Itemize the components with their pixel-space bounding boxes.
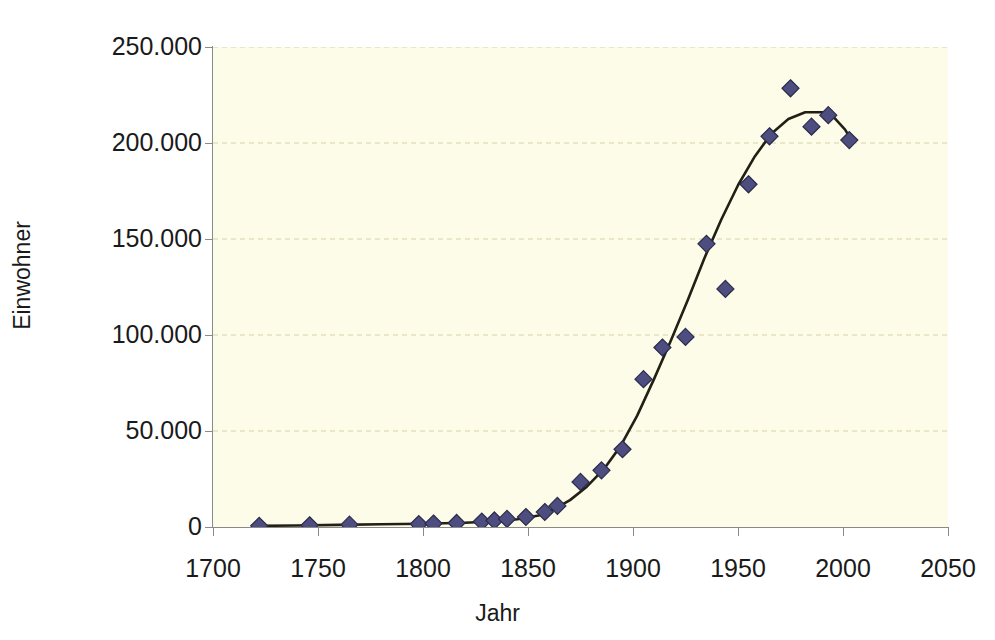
x-tick-mark bbox=[213, 528, 214, 536]
data-point bbox=[448, 514, 465, 527]
data-point bbox=[841, 132, 858, 149]
x-tick-label: 1900 bbox=[573, 556, 693, 581]
x-tick-mark bbox=[423, 528, 424, 536]
data-point bbox=[410, 516, 427, 527]
data-point bbox=[803, 118, 820, 135]
y-tick-mark bbox=[205, 335, 213, 336]
data-point bbox=[717, 280, 734, 297]
x-tick-label: 1850 bbox=[468, 556, 588, 581]
data-point bbox=[635, 371, 652, 388]
y-tick-mark bbox=[205, 431, 213, 432]
trend-line bbox=[259, 112, 851, 526]
x-tick-mark bbox=[528, 528, 529, 536]
y-tick-label: 150.000 bbox=[52, 226, 202, 251]
plot-area bbox=[213, 47, 948, 527]
data-point bbox=[425, 515, 442, 527]
y-tick-label: 100.000 bbox=[52, 322, 202, 347]
y-axis-line bbox=[212, 46, 213, 528]
data-point-markers bbox=[251, 80, 858, 527]
x-tick-mark bbox=[633, 528, 634, 536]
x-axis-line bbox=[212, 527, 949, 528]
data-point bbox=[301, 517, 318, 527]
gridlines bbox=[213, 47, 948, 431]
data-point bbox=[782, 80, 799, 97]
x-tick-label: 2000 bbox=[783, 556, 903, 581]
y-tick-label: 200.000 bbox=[52, 130, 202, 155]
y-tick-mark bbox=[205, 143, 213, 144]
x-tick-label: 1950 bbox=[678, 556, 798, 581]
y-tick-label: 50.000 bbox=[52, 418, 202, 443]
x-tick-label: 1800 bbox=[363, 556, 483, 581]
y-axis-title: Einwohner bbox=[9, 176, 36, 376]
x-tick-mark bbox=[318, 528, 319, 536]
x-tick-mark bbox=[738, 528, 739, 536]
y-tick-label: 0 bbox=[52, 514, 202, 539]
x-axis-tick-labels: 17001750180018501900195020002050 bbox=[0, 556, 995, 596]
chart-figure: 050.000100.000150.000200.000250.000 1700… bbox=[0, 0, 995, 640]
x-tick-mark bbox=[948, 528, 949, 536]
y-tick-mark bbox=[205, 47, 213, 48]
data-point bbox=[654, 339, 671, 356]
y-tick-label: 250.000 bbox=[52, 34, 202, 59]
cut-off-caption bbox=[0, 634, 995, 640]
y-tick-mark bbox=[205, 239, 213, 240]
x-tick-label: 2050 bbox=[888, 556, 995, 581]
data-point bbox=[341, 516, 358, 527]
data-point bbox=[614, 441, 631, 458]
x-axis-title: Jahr bbox=[0, 600, 995, 627]
y-axis-tick-labels: 050.000100.000150.000200.000250.000 bbox=[42, 0, 202, 640]
x-tick-label: 1750 bbox=[258, 556, 378, 581]
data-point bbox=[677, 328, 694, 345]
x-tick-mark bbox=[843, 528, 844, 536]
data-point bbox=[820, 107, 837, 124]
y-tick-mark bbox=[205, 527, 213, 528]
x-tick-label: 1700 bbox=[153, 556, 273, 581]
data-point bbox=[517, 509, 534, 526]
plot-canvas bbox=[213, 47, 948, 527]
data-point bbox=[499, 510, 516, 527]
data-point bbox=[251, 517, 268, 527]
